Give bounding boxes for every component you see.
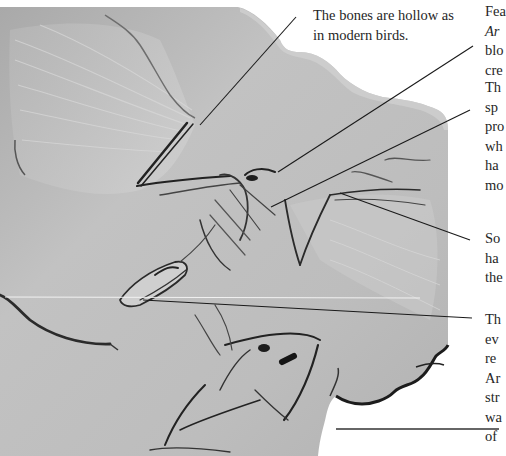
caption-line: of bbox=[485, 427, 502, 447]
caption-line: re bbox=[485, 349, 502, 369]
caption-line: So bbox=[485, 229, 503, 249]
caption-line: pro bbox=[485, 117, 504, 137]
caption-line: str bbox=[485, 388, 502, 408]
caption-feathers: Fea Ar blo cre bbox=[485, 2, 506, 80]
caption-line: Th bbox=[485, 310, 502, 330]
caption-the: Th ev re Ar str wa of bbox=[485, 310, 502, 447]
caption-line: ha bbox=[485, 249, 503, 269]
caption-bones: The bones are hollow as in modern birds. bbox=[313, 6, 454, 45]
caption-line: ha bbox=[485, 156, 504, 176]
caption-line: Ar bbox=[485, 369, 502, 389]
caption-line: in modern birds. bbox=[313, 26, 454, 46]
caption-line: wa bbox=[485, 408, 502, 428]
caption-line: ev bbox=[485, 330, 502, 350]
caption-line: wh bbox=[485, 137, 504, 157]
caption-line: Fea bbox=[485, 2, 506, 22]
caption-line: mo bbox=[485, 176, 504, 196]
caption-line-species-name: Ar bbox=[485, 22, 506, 42]
caption-some: So ha the bbox=[485, 229, 503, 288]
caption-line: The bones are hollow as bbox=[313, 6, 454, 26]
caption-line: blo bbox=[485, 41, 506, 61]
caption-line: Th bbox=[485, 78, 504, 98]
caption-line: sp bbox=[485, 98, 504, 118]
caption-line: the bbox=[485, 268, 503, 288]
caption-specimen: Th sp pro wh ha mo bbox=[485, 78, 504, 195]
